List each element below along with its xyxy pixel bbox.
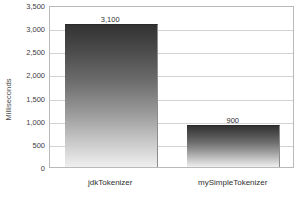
bar-chart: Milliseconds 05001,0001,5002,0002,5003,0… — [0, 0, 304, 199]
y-axis-tick-labels: 05001,0001,5002,0002,5003,0003,500 — [16, 0, 49, 199]
y-axis-tick-label: 0 — [41, 164, 45, 173]
bar-value-label: 3,100 — [101, 15, 120, 24]
y-axis-tick-label: 2,000 — [26, 71, 45, 80]
y-axis-tick-label: 3,000 — [26, 25, 45, 34]
y-axis-tick-label: 2,500 — [26, 48, 45, 57]
bar — [65, 24, 158, 167]
y-axis-title: Milliseconds — [0, 0, 16, 199]
y-axis-tick-label: 1,500 — [26, 94, 45, 103]
x-axis-category-label: jdkTokenizer — [88, 178, 132, 187]
bars-layer — [50, 7, 293, 167]
x-axis-category-labels: jdkTokenizermySimpleTokenizer — [49, 172, 294, 194]
y-axis-tick-label: 500 — [32, 140, 45, 149]
y-axis-title-label: Milliseconds — [4, 78, 13, 120]
x-axis-category-label: mySimpleTokenizer — [198, 178, 267, 187]
bar — [187, 125, 280, 167]
bar-value-label: 900 — [226, 116, 239, 125]
y-axis-tick-label: 1,000 — [26, 117, 45, 126]
y-axis-tick-label: 3,500 — [26, 2, 45, 11]
plot-area — [49, 6, 294, 168]
